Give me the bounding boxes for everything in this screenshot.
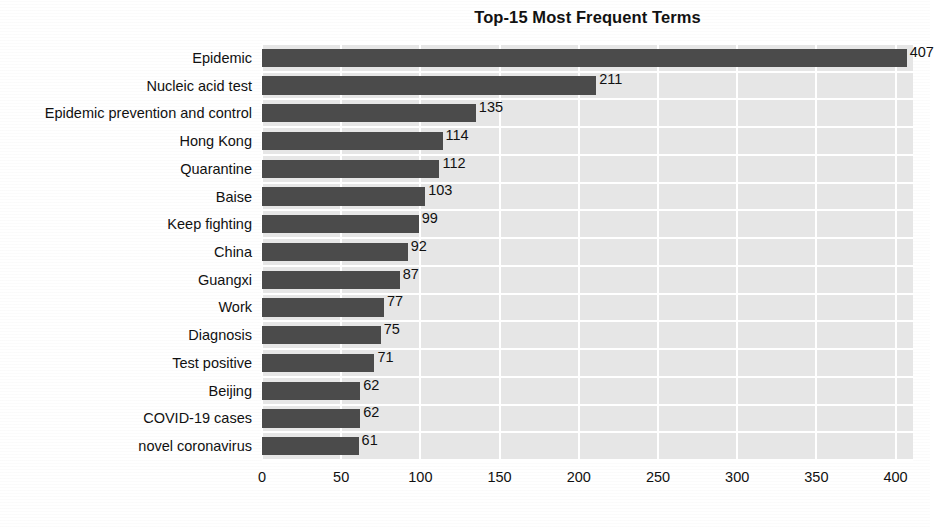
bar-value-label: 114 bbox=[446, 128, 469, 143]
bar bbox=[262, 243, 408, 261]
y-axis-tick-label: Test positive bbox=[0, 356, 252, 371]
x-axis-tick-label: 50 bbox=[333, 470, 349, 485]
y-axis-tick-label: Keep fighting bbox=[0, 217, 252, 232]
x-axis-tick-label: 250 bbox=[646, 470, 670, 485]
x-axis-tick-label: 300 bbox=[725, 470, 749, 485]
bar-value-label: 61 bbox=[362, 433, 378, 448]
bar bbox=[262, 437, 359, 455]
y-axis-tick-label: China bbox=[0, 245, 252, 260]
bar bbox=[262, 271, 400, 289]
bar bbox=[262, 104, 476, 122]
y-axis-tick-label: Epidemic prevention and control bbox=[0, 106, 252, 121]
bar-value-label: 71 bbox=[377, 350, 393, 365]
bar-value-label: 87 bbox=[403, 267, 419, 282]
y-axis-tick-label: Quarantine bbox=[0, 162, 252, 177]
y-axis-category-labels: EpidemicNucleic acid testEpidemic preven… bbox=[0, 44, 252, 460]
x-axis-tick-label: 400 bbox=[883, 470, 907, 485]
x-axis-tick-label: 100 bbox=[408, 470, 432, 485]
bar-value-label: 211 bbox=[599, 72, 622, 87]
y-axis-tick-label: Work bbox=[0, 300, 252, 315]
y-axis-tick-label: Beijing bbox=[0, 384, 252, 399]
x-axis-tick-label: 150 bbox=[487, 470, 511, 485]
bar-value-label: 103 bbox=[428, 183, 452, 198]
x-axis-tick-labels: 050100150200250300350400 bbox=[0, 470, 930, 496]
bar-value-label: 99 bbox=[422, 211, 438, 226]
y-axis-tick-label: Nucleic acid test bbox=[0, 79, 252, 94]
bar bbox=[262, 382, 360, 400]
bar bbox=[262, 132, 443, 150]
bar bbox=[262, 76, 596, 94]
x-axis-tick-label: 200 bbox=[567, 470, 591, 485]
bar-value-label: 112 bbox=[442, 156, 465, 171]
bar bbox=[262, 326, 381, 344]
y-axis-tick-label: Diagnosis bbox=[0, 328, 252, 343]
bar bbox=[262, 187, 425, 205]
bar-value-label: 135 bbox=[479, 100, 503, 115]
y-axis-tick-label: Baise bbox=[0, 190, 252, 205]
bar bbox=[262, 160, 439, 178]
bar-value-label: 407 bbox=[910, 45, 934, 60]
chart-title: Top-15 Most Frequent Terms bbox=[262, 8, 913, 27]
bar-value-label: 92 bbox=[411, 239, 427, 254]
bar-value-label: 75 bbox=[384, 322, 400, 337]
plot-area bbox=[262, 44, 913, 460]
bar-value-label: 62 bbox=[363, 405, 379, 420]
y-axis-tick-label: novel coronavirus bbox=[0, 439, 252, 454]
x-axis-tick-label: 0 bbox=[258, 470, 266, 485]
y-axis-tick-label: Epidemic bbox=[0, 51, 252, 66]
bars-layer bbox=[262, 44, 913, 460]
y-axis-tick-label: COVID-19 cases bbox=[0, 411, 252, 426]
bar bbox=[262, 49, 907, 67]
y-axis-tick-label: Hong Kong bbox=[0, 134, 252, 149]
bar bbox=[262, 298, 384, 316]
bar bbox=[262, 215, 419, 233]
bar bbox=[262, 409, 360, 427]
bar bbox=[262, 354, 374, 372]
y-axis-tick-label: Guangxi bbox=[0, 273, 252, 288]
bar-value-label: 62 bbox=[363, 378, 379, 393]
x-axis-tick-label: 350 bbox=[804, 470, 828, 485]
bar-value-label: 77 bbox=[387, 294, 403, 309]
